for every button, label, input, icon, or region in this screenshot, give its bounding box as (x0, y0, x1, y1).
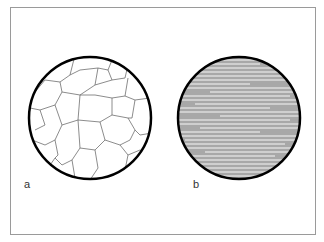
panel-a-circle (29, 57, 151, 179)
panel-b-label: b (193, 178, 199, 190)
panel-a-label: a (24, 178, 30, 190)
figure-canvas (0, 0, 324, 242)
panel-b-stripes (176, 55, 302, 181)
